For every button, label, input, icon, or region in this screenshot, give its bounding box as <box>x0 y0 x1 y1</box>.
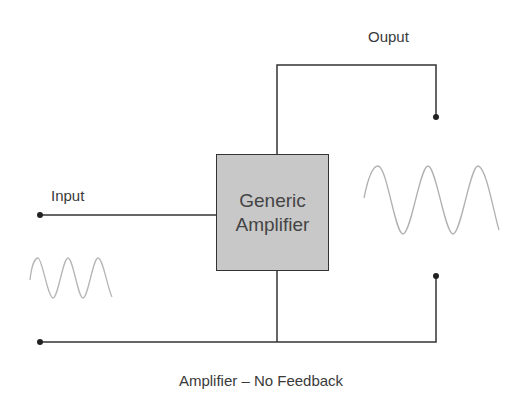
diagram-caption: Amplifier – No Feedback <box>0 372 522 389</box>
input-label: Input <box>51 187 84 204</box>
input-signal-wave <box>30 258 112 298</box>
output-terminal-top <box>433 114 439 120</box>
input-terminal <box>37 212 43 218</box>
amplifier-label-line2: Amplifier <box>236 213 310 237</box>
output-terminal-bottom <box>433 273 439 279</box>
output-signal-wave <box>364 166 499 234</box>
input-ground-terminal <box>37 339 43 345</box>
amplifier-label-line1: Generic <box>239 189 306 213</box>
ground-wire <box>40 276 436 342</box>
amplifier-block: Generic Amplifier <box>216 154 329 271</box>
output-wire <box>277 65 436 154</box>
amplifier-diagram: Generic Amplifier Input Ouput Amplifier … <box>0 0 528 408</box>
output-label: Ouput <box>368 28 409 45</box>
